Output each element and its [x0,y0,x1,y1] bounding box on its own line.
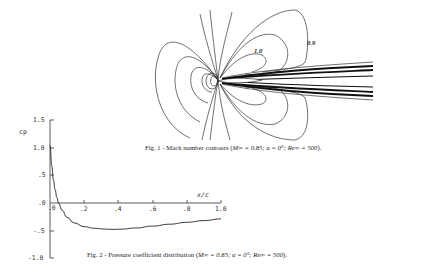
cp-axes [50,120,221,258]
cp-curve [50,145,221,229]
y-tick-0.0: .0 [38,199,46,207]
fig2-caption-params: M∞ = 0.85; α = 0°; Re∞ = 500 [198,251,283,258]
x-axis-label: x/c [197,191,209,199]
fig1-caption-prefix: Fig. 1 - Mach number contours ( [145,144,232,151]
fig2-caption-suffix: ). [283,251,287,258]
contour-label-0.9: 0.9 [307,39,315,46]
fig1-caption: Fig. 1 - Mach number contours (M∞ = 0.85… [145,144,321,151]
fig2-caption: Fig. 2 - Pressure coefficient distributi… [87,251,287,258]
y-tick-neg1.0: -1.0 [28,254,43,262]
y-tick-neg0.5: -.5 [33,227,45,235]
x-tick-0.6: .6 [149,205,157,213]
fig1-caption-suffix: ). [317,144,321,151]
mach-contour-plot [0,0,422,274]
x-tick-0.0: .0 [48,204,56,212]
x-tick-1.0: 1.0 [215,205,227,213]
x-tick-0.8: .8 [183,205,191,213]
cp-axis-label: cp [19,128,27,136]
y-tick-0.5: .5 [38,171,46,179]
x-tick-0.4: .4 [114,205,122,213]
y-tick-1.5: 1.5 [33,116,45,124]
x-tick-0.2: .2 [80,205,88,213]
fig2-caption-prefix: Fig. 2 - Pressure coefficient distributi… [87,251,198,258]
contour-label-1.0: 1.0 [254,47,262,54]
y-tick-1.0: 1.0 [33,144,45,152]
fig1-caption-params: M∞ = 0.85; α = 0°; Re∞ = 500 [232,144,317,151]
